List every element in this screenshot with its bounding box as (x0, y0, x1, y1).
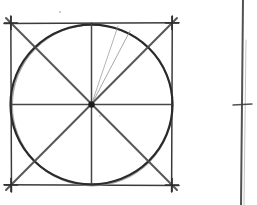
paper-background (0, 0, 257, 205)
stray-dot-top (59, 11, 61, 13)
sketch-drawing (0, 0, 257, 205)
center-dot (88, 101, 94, 107)
stray-dot-center-right (99, 115, 101, 117)
partial-tick-mark (233, 104, 252, 105)
figure-square-circle (4, 16, 179, 192)
sketch-canvas (0, 0, 257, 205)
